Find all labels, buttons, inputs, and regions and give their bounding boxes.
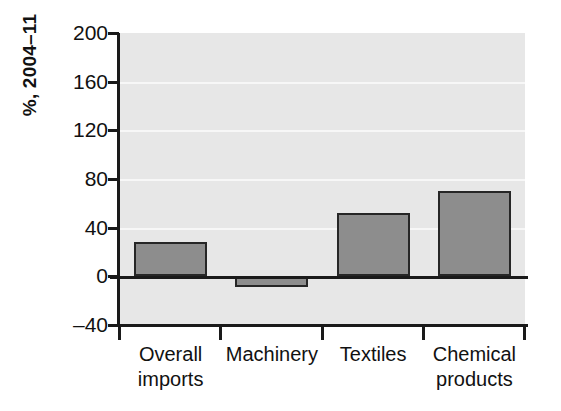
y-axis-tick-label: –40 [46,314,108,335]
y-axis-title: %, 2004–11 [19,0,45,145]
x-axis-tick-mark [219,326,222,340]
x-axis-category-label: Machinery [221,342,322,367]
gridline [120,179,525,181]
gridline [120,130,525,132]
x-axis-category-label: Overall imports [120,342,221,392]
y-axis-tick-label: 40 [46,217,108,238]
x-axis-category-label: Textiles [323,342,424,367]
x-axis-category-labels: Overall importsMachineryTextilesChemical… [110,342,528,408]
x-axis-tick-mark [118,326,121,340]
bar-chart-figure: %, 2004–11 20016012080400–40 Overall imp… [0,0,561,411]
y-axis-tick-label: 160 [46,71,108,92]
x-axis-tick-mark [523,326,526,340]
x-axis-line [110,324,528,327]
x-axis-category-label: Chemical products [424,342,525,392]
bar [134,242,207,276]
zero-baseline [110,276,528,279]
y-axis-tick-label: 120 [46,119,108,140]
gridline [120,82,525,84]
y-axis-line [117,33,120,327]
x-axis-tick-mark [422,326,425,340]
y-axis-tick-label: 80 [46,168,108,189]
y-axis-tick-label: 0 [46,265,108,286]
plot-area [120,33,525,325]
x-axis-tick-mark [321,326,324,340]
y-axis-tick-labels: 20016012080400–40 [46,0,108,411]
bar [438,191,511,276]
bar [337,213,410,276]
y-axis-tick-label: 200 [46,22,108,43]
